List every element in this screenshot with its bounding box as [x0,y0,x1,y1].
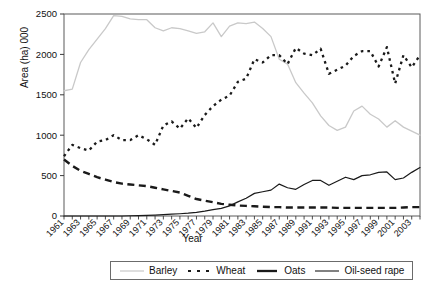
legend-label-oats: Oats [284,265,305,276]
y-tick-label: 2000 [36,49,57,60]
legend-item-barley: Barley [119,265,177,276]
legend-item-wheat: Wheat [186,265,245,276]
y-tick-label: 1000 [36,130,57,141]
legend-swatch-oats [254,266,280,275]
legend-label-oilseed-rape: Oil-seed rape [344,265,404,276]
chart-plot-area: 0500100015002000250019611963196519671969… [0,0,435,288]
legend-swatch-wheat [186,266,212,275]
y-axis-title: Area (ha) 000 [19,0,30,118]
y-tick-label: 1500 [36,89,57,100]
plot-frame [64,14,420,216]
y-tick-label: 2500 [36,8,57,19]
series-line-wheat [64,47,420,156]
legend-swatch-oilseed-rape [314,266,340,275]
chart-figure: 0500100015002000250019611963196519671969… [0,0,435,288]
legend-swatch-barley [119,266,145,275]
legend-label-barley: Barley [149,265,177,276]
legend-label-wheat: Wheat [216,265,245,276]
legend-item-oilseed-rape: Oil-seed rape [314,265,404,276]
y-tick-label: 500 [41,170,57,181]
legend-item-oats: Oats [254,265,305,276]
series-line-barley [64,16,420,136]
chart-legend: Barley Wheat Oats Oil-seed rape [110,261,413,280]
x-axis-title: Year [0,233,435,244]
x-axis-title-text: Year [182,233,202,244]
